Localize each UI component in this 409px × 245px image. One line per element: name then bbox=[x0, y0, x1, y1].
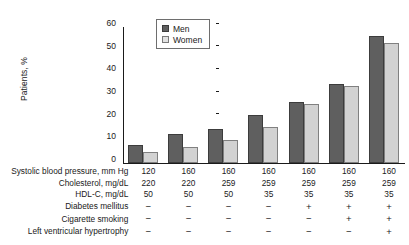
y-tick-label-10: 10 bbox=[96, 132, 116, 140]
minus-icon: − bbox=[186, 213, 192, 224]
bar-women bbox=[143, 152, 158, 163]
minus-icon: − bbox=[226, 201, 232, 212]
y-tick-label-20: 20 bbox=[96, 110, 116, 118]
x-axis-line bbox=[123, 163, 405, 164]
table-cell: + bbox=[369, 226, 409, 239]
table-cell: − bbox=[168, 201, 208, 214]
table-cell: 120 bbox=[128, 166, 168, 178]
table-cell: − bbox=[289, 213, 329, 226]
bar-women bbox=[384, 43, 399, 163]
bar-group bbox=[325, 27, 365, 163]
bar-group bbox=[244, 27, 284, 163]
minus-icon: − bbox=[266, 201, 272, 212]
minus-icon: − bbox=[266, 226, 272, 237]
bar-women bbox=[304, 104, 319, 163]
bar-group bbox=[365, 27, 405, 163]
minus-icon: − bbox=[226, 226, 232, 237]
minus-icon: − bbox=[146, 213, 152, 224]
plus-icon: + bbox=[346, 213, 352, 224]
table-row: Left ventricular hypertrophy−−−−−−+ bbox=[0, 226, 409, 239]
plus-icon: + bbox=[386, 201, 392, 212]
table-cell: + bbox=[329, 201, 369, 214]
table-row-label: Cholesterol, mg/dL bbox=[0, 178, 128, 190]
plus-icon: + bbox=[386, 213, 392, 224]
bar-men bbox=[329, 84, 344, 163]
plus-icon: + bbox=[386, 226, 392, 237]
table-row-label: Left ventricular hypertrophy bbox=[0, 226, 128, 239]
bar-group bbox=[204, 27, 244, 163]
y-tick-label-60: 60 bbox=[96, 19, 116, 27]
minus-icon: − bbox=[306, 213, 312, 224]
table-cell: 220 bbox=[168, 178, 208, 190]
table-cell: 35 bbox=[249, 189, 289, 201]
table-cell: + bbox=[329, 213, 369, 226]
legend-label-men: Men bbox=[173, 24, 190, 34]
bar-men bbox=[208, 129, 223, 163]
table-cell: 160 bbox=[369, 166, 409, 178]
table-cell: 160 bbox=[168, 166, 208, 178]
table-cell: 35 bbox=[289, 189, 329, 201]
table-cell: − bbox=[249, 201, 289, 214]
table-row-label: Cigarette smoking bbox=[0, 213, 128, 226]
y-tick-label-0: 0 bbox=[96, 155, 116, 163]
table-row: Systolic blood pressure, mm Hg1201601601… bbox=[0, 166, 409, 178]
minus-icon: − bbox=[186, 201, 192, 212]
y-tick-label-50: 50 bbox=[96, 42, 116, 50]
table-cell: 259 bbox=[289, 178, 329, 190]
table-cell: − bbox=[209, 213, 249, 226]
bar-women bbox=[183, 147, 198, 163]
y-tick-mark-60 bbox=[216, 23, 219, 24]
bar-group bbox=[285, 27, 325, 163]
minus-icon: − bbox=[186, 226, 192, 237]
bar-men bbox=[168, 134, 183, 163]
table-cell: − bbox=[168, 213, 208, 226]
table-cell: 50 bbox=[168, 189, 208, 201]
minus-icon: − bbox=[346, 226, 352, 237]
table-cell: + bbox=[369, 201, 409, 214]
bar-men bbox=[289, 102, 304, 163]
table-cell: − bbox=[128, 226, 168, 239]
minus-icon: − bbox=[266, 213, 272, 224]
risk-factor-table-grid: Systolic blood pressure, mm Hg1201601601… bbox=[0, 166, 409, 238]
table-cell: 160 bbox=[329, 166, 369, 178]
table-cell: 220 bbox=[128, 178, 168, 190]
table-row-label: Systolic blood pressure, mm Hg bbox=[0, 166, 128, 178]
y-axis-title: Patients, % bbox=[19, 29, 29, 129]
bar-men bbox=[248, 115, 263, 163]
bar-men bbox=[128, 145, 143, 163]
minus-icon: − bbox=[306, 226, 312, 237]
legend-swatch-men-icon bbox=[162, 25, 169, 32]
table-cell: − bbox=[128, 213, 168, 226]
table-cell: − bbox=[249, 213, 289, 226]
table-row-label: Diabetes mellitus bbox=[0, 201, 128, 214]
y-tick-label-40: 40 bbox=[96, 64, 116, 72]
legend-item-men: Men bbox=[162, 23, 202, 34]
table-cell: − bbox=[249, 226, 289, 239]
legend-item-women: Women bbox=[162, 34, 202, 45]
table-cell: − bbox=[168, 226, 208, 239]
table-cell: 50 bbox=[128, 189, 168, 201]
table-cell: 35 bbox=[329, 189, 369, 201]
bar-women bbox=[263, 127, 278, 163]
bar-women bbox=[223, 140, 238, 163]
bar-women bbox=[344, 86, 359, 163]
minus-icon: − bbox=[146, 226, 152, 237]
table-row: Cigarette smoking−−−−−++ bbox=[0, 213, 409, 226]
table-cell: − bbox=[128, 201, 168, 214]
table-cell: 160 bbox=[209, 166, 249, 178]
table-cell: 160 bbox=[289, 166, 329, 178]
y-axis-tick-labels: 60 50 40 30 20 10 0 bbox=[96, 23, 116, 163]
bar-men bbox=[369, 36, 384, 163]
table-cell: 35 bbox=[369, 189, 409, 201]
table-row: Diabetes mellitus−−−−+++ bbox=[0, 201, 409, 214]
chart-legend: Men Women bbox=[156, 19, 210, 49]
table-cell: 259 bbox=[329, 178, 369, 190]
table-cell: 160 bbox=[249, 166, 289, 178]
table-cell: + bbox=[289, 201, 329, 214]
legend-swatch-women-icon bbox=[162, 36, 169, 43]
table-cell: − bbox=[329, 226, 369, 239]
table-row: HDL-C, mg/dL50505035353535 bbox=[0, 189, 409, 201]
table-cell: 259 bbox=[249, 178, 289, 190]
plus-icon: + bbox=[346, 201, 352, 212]
table-cell: − bbox=[209, 201, 249, 214]
